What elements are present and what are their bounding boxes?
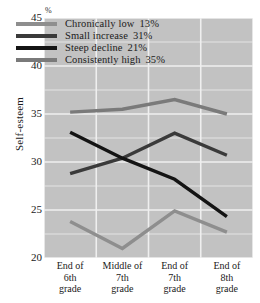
x-axis-tick-line: 6th <box>44 272 96 284</box>
legend-value: 13% <box>139 18 159 29</box>
x-axis-tick-line: Middle of <box>96 260 148 272</box>
x-axis-tick-line: End of <box>44 260 96 272</box>
x-axis-tick-line: End of <box>149 260 201 272</box>
y-axis-tick: 20 <box>4 251 42 263</box>
legend-value: 21% <box>128 42 148 53</box>
legend-value: 31% <box>133 30 153 41</box>
x-axis-tick-line: grade <box>149 283 201 295</box>
x-axis-tick-line: 8th <box>201 272 253 284</box>
legend-color-swatch <box>16 46 57 50</box>
self-esteem-line-chart: Self-esteem % 454035302520 Chronically l… <box>0 0 260 303</box>
legend-label: Consistently high35% <box>65 54 165 65</box>
y-axis-unit-label: % <box>45 6 52 15</box>
x-axis-tick: Middle of7thgrade <box>96 260 148 295</box>
x-axis-tick-line: 7th <box>96 272 148 284</box>
legend-label: Chronically low13% <box>65 18 159 29</box>
x-axis-tick-line: End of <box>201 260 253 272</box>
x-axis-tick: End of8thgrade <box>201 260 253 295</box>
legend-label: Small increase31% <box>65 30 152 41</box>
legend-item: Small increase31% <box>16 30 212 41</box>
x-axis-tick: End of6thgrade <box>44 260 96 295</box>
legend-item: Consistently high35% <box>16 54 212 65</box>
x-axis-tick: End of7thgrade <box>149 260 201 295</box>
x-axis-tick-line: grade <box>201 283 253 295</box>
legend-color-swatch <box>16 34 57 38</box>
x-axis-tick-line: grade <box>44 283 96 295</box>
x-axis-tick-line: grade <box>96 283 148 295</box>
legend-label: Steep decline21% <box>65 42 147 53</box>
chart-legend: Chronically low13%Small increase31%Steep… <box>16 18 212 66</box>
x-axis-tick-labels: End of6thgradeMiddle of7thgradeEnd of7th… <box>44 260 253 295</box>
legend-item: Steep decline21% <box>16 42 212 53</box>
y-axis-tick: 35 <box>4 107 42 119</box>
legend-color-swatch <box>16 58 57 62</box>
legend-item: Chronically low13% <box>16 18 212 29</box>
x-axis-tick-line: 7th <box>149 272 201 284</box>
y-axis-tick: 30 <box>4 155 42 167</box>
legend-value: 35% <box>146 54 166 65</box>
legend-color-swatch <box>16 22 57 26</box>
y-axis-tick: 25 <box>4 203 42 215</box>
